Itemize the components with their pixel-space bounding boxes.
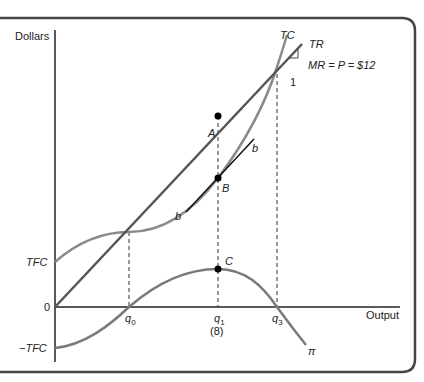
tangent-b-lower-label: b xyxy=(175,210,181,222)
x-axis-label: Output xyxy=(366,309,399,321)
point-a xyxy=(215,113,222,120)
zero-label: 0 xyxy=(44,301,50,313)
slope-run-label: 1 xyxy=(290,76,296,88)
profit-curve xyxy=(55,269,306,348)
mr-label: MR = P = $12 xyxy=(308,59,375,71)
tangent-b-upper-label: b xyxy=(252,142,258,154)
point-b-label: B xyxy=(222,182,229,194)
tfc-label: TFC xyxy=(26,256,47,268)
neg-tfc-label: −TFC xyxy=(19,342,47,354)
y-axis-label: Dollars xyxy=(15,30,50,42)
point-b xyxy=(215,175,222,182)
tc-label: TC xyxy=(280,29,295,41)
profit-maximization-chart: Dollars Output TFC 0 −TFC q0 q1 (8) q3 T… xyxy=(0,0,424,382)
tr-line xyxy=(55,44,302,307)
chart-frame xyxy=(0,18,415,372)
point-c-label: C xyxy=(225,255,233,267)
q0-label: q0 xyxy=(125,312,136,327)
pi-label: π xyxy=(308,345,316,357)
point-c xyxy=(215,266,222,273)
point-a-label: A xyxy=(207,127,215,139)
q1-value-label: (8) xyxy=(210,325,223,337)
tr-label: TR xyxy=(309,38,324,50)
